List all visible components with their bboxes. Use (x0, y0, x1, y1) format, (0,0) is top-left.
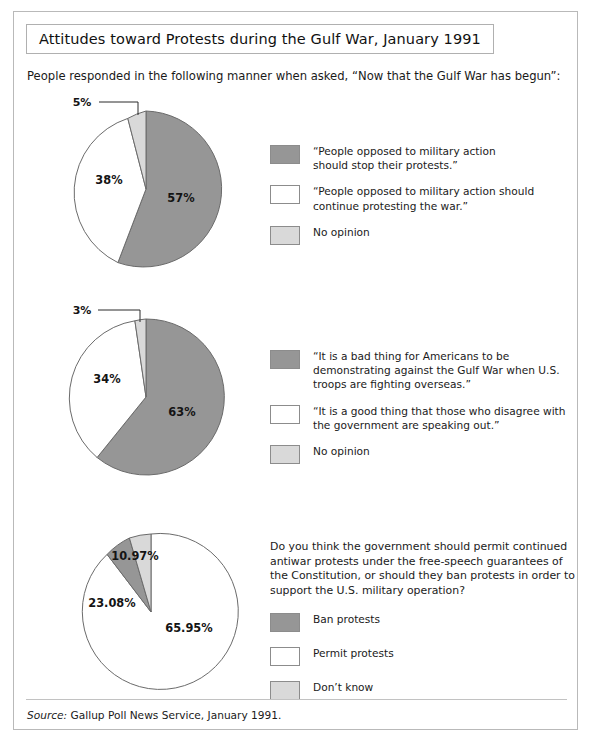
pie-1-svg: 57% 38% 5% (54, 92, 254, 282)
legend-swatch-dark-gray (270, 613, 300, 632)
pie-1-label-white: 38% (95, 173, 123, 187)
pie-chart-1: 57% 38% 5% (54, 92, 254, 282)
legend-3: Do you think the government should permi… (270, 540, 580, 700)
legend-label: “People opposed to military action shoul… (313, 184, 534, 212)
legend-2: “It is a bad thing for Americans to be d… (270, 349, 570, 464)
legend-label: No opinion (313, 444, 370, 458)
legend-label: Ban protests (313, 612, 380, 626)
legend-item[interactable]: Don’t know (270, 680, 580, 700)
legend-swatch-dark-gray (270, 145, 300, 164)
legend-label: No opinion (313, 225, 370, 239)
legend-label-line1: “It is a good thing that those who disag… (313, 405, 566, 417)
legend-label-line2: continue protesting the war.” (313, 200, 468, 212)
legend-swatch-white (270, 185, 300, 204)
pie-2-label-dark: 63% (168, 405, 196, 419)
intro-text: People responded in the following manner… (27, 69, 560, 83)
pie-chart-2: 63% 34% 3% (54, 300, 254, 490)
legend-item[interactable]: Ban protests (270, 612, 580, 632)
pie-2-label-lightgray: 3% (73, 304, 92, 317)
figure-title-box: Attitudes toward Protests during the Gul… (26, 24, 494, 54)
question-line3: the Constitution, or should they ban pro… (270, 569, 575, 582)
legend-swatch-white (270, 647, 300, 666)
legend-item[interactable]: “People opposed to military action shoul… (270, 184, 570, 212)
legend-label: “People opposed to military action shoul… (313, 144, 496, 172)
legend-label: “It is a bad thing for Americans to be d… (313, 349, 560, 392)
pie-2-label-white: 34% (93, 372, 121, 386)
question-line4: support the U.S. military operation? (270, 584, 465, 597)
legend-label-line1: “It is a bad thing for Americans to be (313, 350, 509, 362)
pie-1-leader-line (99, 102, 138, 115)
legend-1: “People opposed to military action shoul… (270, 144, 570, 245)
legend-item[interactable]: “People opposed to military action shoul… (270, 144, 570, 172)
source-divider (26, 699, 567, 700)
question-text: Do you think the government should permi… (270, 540, 580, 598)
legend-label-line2: the government are speaking out.” (313, 419, 500, 431)
pie-3-label-dark: 23.08% (88, 596, 136, 610)
source-text: Gallup Poll News Service, January 1991. (67, 709, 281, 721)
legend-swatch-light-gray (270, 681, 300, 700)
legend-item[interactable]: “It is a bad thing for Americans to be d… (270, 349, 570, 392)
legend-label-line2: should stop their protests.” (313, 159, 458, 171)
pie-3-slice-white (82, 533, 238, 689)
legend-label: Permit protests (313, 646, 394, 660)
figure-frame: Attitudes toward Protests during the Gul… (13, 11, 578, 730)
pie-3-label-lightgray: 10.97% (111, 549, 159, 563)
legend-swatch-light-gray (270, 445, 300, 464)
pie-chart-3: 65.95% 23.08% 10.97% (59, 517, 259, 702)
pie-1-label-dark: 57% (167, 191, 195, 205)
legend-item[interactable]: “It is a good thing that those who disag… (270, 404, 570, 432)
legend-label-line1: “People opposed to military action shoul… (313, 185, 534, 197)
page-title: Attitudes toward Protests during the Gul… (39, 31, 481, 47)
legend-label-line3: troops are fighting overseas.” (313, 378, 471, 390)
pie-1-label-lightgray: 5% (73, 96, 92, 109)
question-line1: Do you think the government should permi… (270, 540, 567, 553)
legend-item[interactable]: Permit protests (270, 646, 580, 666)
legend-swatch-dark-gray (270, 350, 300, 369)
pie-3-label-white: 65.95% (165, 621, 213, 635)
source-label: Source: (27, 709, 67, 721)
legend-swatch-white (270, 405, 300, 424)
legend-item[interactable]: No opinion (270, 225, 570, 245)
pie-2-leader-line (98, 310, 140, 322)
legend-label: “It is a good thing that those who disag… (313, 404, 566, 432)
legend-swatch-light-gray (270, 226, 300, 245)
pie-2-svg: 63% 34% 3% (54, 300, 254, 490)
legend-label-line2: demonstrating against the Gulf War when … (313, 364, 560, 376)
source-line: Source: Gallup Poll News Service, Januar… (27, 709, 281, 721)
legend-item[interactable]: No opinion (270, 444, 570, 464)
question-line2: antiwar protests under the free-speech g… (270, 555, 563, 568)
legend-label-line1: “People opposed to military action (313, 145, 496, 157)
pie-3-svg: 65.95% 23.08% 10.97% (59, 517, 259, 702)
legend-label: Don’t know (313, 680, 373, 694)
